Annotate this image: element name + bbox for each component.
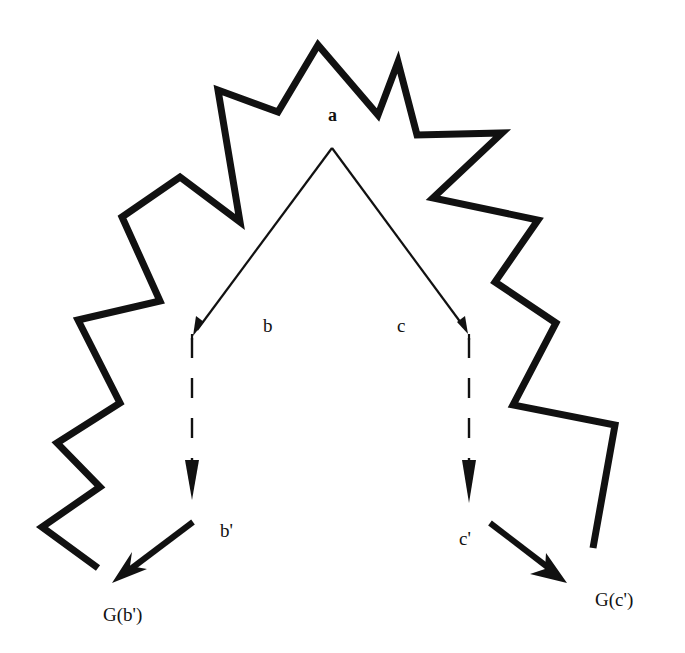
- node-label-b: b: [263, 315, 273, 336]
- edge-c-prime-to-G: [490, 523, 567, 583]
- node-label-b-prime: b': [220, 520, 233, 541]
- edge-b-prime-to-G: [112, 522, 193, 583]
- edge-a-to-c: [332, 148, 469, 340]
- node-label-G-c-prime: G(c'): [595, 589, 633, 611]
- diagram-canvas: a b c b' c' G(b') G(c'): [0, 0, 685, 653]
- node-label-c-prime: c': [459, 528, 471, 549]
- edge-a-to-b: [192, 148, 332, 340]
- arrowhead-b-prime-icon: [185, 460, 199, 500]
- edge-b-to-b-prime: [185, 338, 199, 500]
- arrowhead-b-icon: [193, 316, 204, 336]
- node-label-c: c: [397, 315, 405, 336]
- arrowhead-G-b-prime-icon: [112, 552, 147, 583]
- arrowhead-c-prime-icon: [462, 460, 476, 503]
- edge-c-to-c-prime: [462, 338, 476, 503]
- node-label-G-b-prime: G(b'): [103, 604, 142, 626]
- node-label-a: a: [328, 105, 337, 125]
